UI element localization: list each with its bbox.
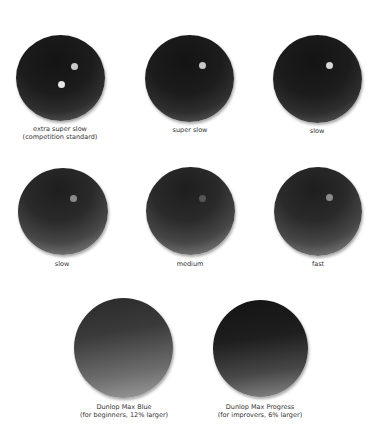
ball-label: super slow xyxy=(173,126,208,134)
ball-label: Dunlop Max Blue xyxy=(80,403,168,411)
ball-caption: slow xyxy=(55,260,70,268)
squash-ball-icon xyxy=(273,35,362,123)
ball-sublabel: (competition standard) xyxy=(23,133,98,141)
ball-label: medium xyxy=(177,260,204,268)
ball-caption: slow xyxy=(310,127,325,135)
yellow-dot-icon xyxy=(199,62,206,69)
ball-caption: medium xyxy=(177,260,204,268)
ball-caption: super slow xyxy=(173,126,208,134)
yellow-dot-icon xyxy=(58,81,65,88)
squash-ball-icon xyxy=(16,35,105,121)
dot-icon xyxy=(70,195,77,202)
ball-caption: Dunlop Max Progress (for improvers, 6% l… xyxy=(218,403,302,419)
squash-ball-icon xyxy=(18,168,108,255)
white-dot-icon xyxy=(326,62,333,69)
squash-ball-icon xyxy=(146,167,235,255)
squash-ball-icon xyxy=(213,300,308,397)
squash-ball-icon xyxy=(274,167,362,256)
squash-ball-icon xyxy=(74,298,173,398)
dot-icon xyxy=(199,195,206,202)
ball-sublabel: (for improvers, 6% larger) xyxy=(218,411,302,419)
ball-caption: extra super slow (competition standard) xyxy=(23,125,98,141)
ball-sublabel: (for beginners, 12% larger) xyxy=(80,411,168,419)
ball-caption: Dunlop Max Blue (for beginners, 12% larg… xyxy=(80,403,168,419)
ball-caption: fast xyxy=(312,260,324,268)
ball-label: extra super slow xyxy=(23,125,98,133)
squash-ball-icon xyxy=(145,35,234,122)
ball-label: slow xyxy=(310,127,325,135)
dot-icon xyxy=(326,194,333,201)
ball-label: fast xyxy=(312,260,324,268)
ball-label: Dunlop Max Progress xyxy=(218,403,302,411)
yellow-dot-icon xyxy=(71,63,78,70)
ball-label: slow xyxy=(55,260,70,268)
